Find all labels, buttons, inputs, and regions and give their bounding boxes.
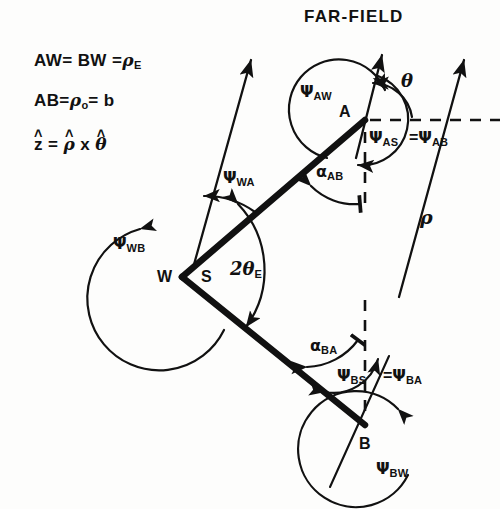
arc-psi-bw [298, 391, 408, 507]
rho-ray-symbol: ρ [420, 206, 433, 228]
theta-angle-symbol: θ [401, 70, 413, 91]
psi-ab-subscript: AB [432, 136, 448, 148]
rho-hat-caret: ˄ [65, 127, 74, 141]
angle-label-alpha-ba: αBA [310, 338, 337, 356]
angle-label-psi-bs: ΨBS [337, 368, 366, 386]
vertex-label-W: W [157, 269, 172, 285]
angle-label-psi-wb: ΨWB [113, 236, 145, 254]
psi-aw-subscript: AW [314, 90, 332, 102]
psi-bw-subscript: BW [390, 467, 409, 479]
angle-label-psi-aw: ΨAW [300, 84, 332, 102]
legend-line-3: ˄z = ˄ρ x ˄θ [34, 136, 107, 153]
legend-line-2-lhs: AB= [34, 91, 70, 110]
far-field-ray-from-B [399, 60, 464, 297]
psi-bs-symbol: Ψ [337, 366, 351, 385]
psi-ba-symbol: Ψ [392, 366, 406, 385]
theta-hat-caret: ˄ [97, 127, 106, 141]
psi-ab-symbol: Ψ [418, 128, 432, 147]
psi-bw-symbol: Ψ [376, 459, 390, 478]
angle-label-psi-ab: =ΨAB [409, 130, 448, 148]
psi-wa-symbol: Ψ [223, 168, 237, 187]
arc-alpha-ab [311, 186, 360, 204]
z-hat-caret: ˄ [34, 127, 43, 141]
alpha-ab-symbol: α [316, 162, 327, 181]
alpha-ab-subscript: AB [327, 170, 343, 182]
figure-title: FAR-FIELD [304, 8, 404, 25]
legend-line-2-rhs: = b [88, 91, 114, 110]
rho-symbol: ρ [122, 50, 134, 70]
psi-ba-equals: = [383, 367, 392, 384]
alpha-ba-symbol: α [310, 336, 321, 355]
angle-label-rho-ray: ρ [420, 208, 433, 227]
legend-equals: = [48, 135, 58, 154]
psi-ba-subscript: BA [406, 374, 422, 386]
angle-label-psi-bw: ΨBW [376, 461, 408, 479]
psi-as-symbol: Ψ [369, 128, 383, 147]
two-theta-symbol: 2θ [230, 258, 255, 279]
vertex-label-S: S [201, 269, 212, 285]
angle-label-theta: θ [401, 72, 413, 90]
cross-product-symbol: x [80, 135, 90, 154]
psi-wb-symbol: Ψ [113, 234, 127, 253]
legend-line-1-lhs: AW= BW = [34, 51, 122, 70]
psi-wa-subscript: WA [237, 176, 255, 188]
two-theta-e-subscript: E [255, 268, 263, 280]
angle-label-psi-wa: ΨWA [223, 170, 255, 188]
vertex-label-A: A [339, 104, 351, 120]
diagram-svg [0, 0, 500, 509]
angle-label-two-theta-e: 2θE [230, 260, 262, 280]
arc-psi-wb [87, 229, 224, 370]
angle-label-psi-ba: =ΨBA [383, 368, 422, 386]
psi-aw-symbol: Ψ [300, 82, 314, 101]
psi-wb-subscript: WB [127, 242, 146, 254]
angle-label-psi-as: ΨAS [369, 130, 398, 148]
rho-symbol-2: ρ [70, 90, 82, 110]
vertex-label-B: B [359, 436, 371, 452]
theta-hat: ˄θ [95, 136, 107, 153]
psi-bs-subscript: BS [351, 374, 367, 386]
psi-ab-equals: = [409, 129, 418, 146]
z-hat: ˄z [34, 136, 43, 153]
alpha-ba-subscript: BA [321, 344, 337, 356]
legend-line-2: AB=ρo= b [34, 92, 115, 111]
rho-e-subscript: E [134, 59, 142, 71]
figure-canvas: FAR-FIELD AW= BW =ρE AB=ρo= b ˄z = ˄ρ x … [0, 0, 500, 509]
legend-line-1: AW= BW =ρE [34, 52, 141, 71]
far-field-ray-from-W [193, 60, 251, 268]
angle-label-alpha-ab: αAB [316, 164, 343, 182]
psi-as-subscript: AS [383, 136, 399, 148]
rho-hat: ˄ρ [63, 136, 75, 153]
segment-WA [182, 120, 365, 277]
